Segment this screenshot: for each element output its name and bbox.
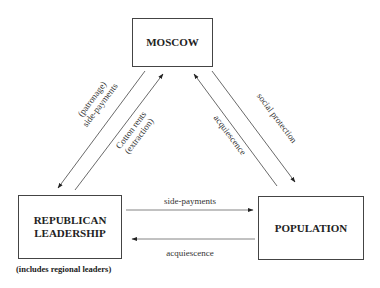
edge-label-side-payments: side-payments (150, 196, 230, 206)
node-moscow: MOSCOW (132, 18, 213, 67)
node-population-label: POPULATION (275, 222, 348, 235)
node-republican-line2: LEADERSHIP (34, 227, 106, 240)
arrow-population-to-moscow (194, 74, 277, 186)
node-population: POPULATION (258, 196, 364, 260)
arrow-republican-to-moscow (75, 74, 163, 190)
node-moscow-label: MOSCOW (146, 36, 199, 49)
node-republican-line1: REPUBLICAN (34, 214, 107, 227)
node-republican-leadership: REPUBLICAN LEADERSHIP (18, 195, 122, 259)
edge-label-acquiescence-horizontal: acquiescence (150, 248, 230, 258)
node-republican-note: (includes regional leaders) (16, 264, 111, 274)
